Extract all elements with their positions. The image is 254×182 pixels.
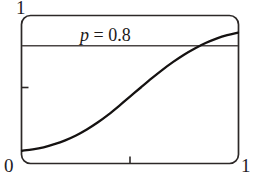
y-axis-max-label: 1 [16, 0, 26, 17]
annotation-value: = 0.8 [89, 25, 131, 45]
origin-label: 0 [4, 156, 14, 175]
x-axis-max-label: 1 [241, 156, 251, 175]
annotation-variable: p [80, 25, 89, 45]
figure-panel: 1 0 1 p = 0.8 [0, 0, 254, 182]
reference-line-annotation: p = 0.8 [80, 25, 131, 46]
